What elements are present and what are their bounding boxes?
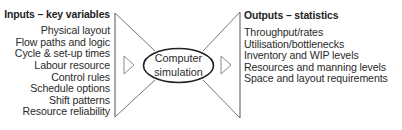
input-arrow-icon (124, 56, 134, 74)
simulation-label-line2: simulation (143, 66, 214, 79)
output-funnel-bottom-line (203, 80, 240, 118)
output-funnel-top-line (203, 12, 240, 51)
simulation-label-line1: Computer (143, 52, 214, 65)
output-arrow-icon (221, 56, 231, 74)
input-funnel-bottom-line (115, 80, 155, 117)
inputs-heading: Inputs – key variables (4, 9, 110, 21)
input-item: Physical layout (41, 24, 110, 36)
input-item: Schedule options (30, 82, 110, 94)
input-item: Labour resource (34, 59, 110, 71)
output-item: Space and layout requirements (244, 72, 388, 84)
outputs-heading: Outputs – statistics (244, 10, 338, 22)
input-item: Resource reliability (23, 105, 111, 117)
output-item: Throughput/rates (244, 26, 323, 38)
input-funnel-top-line (115, 13, 155, 51)
input-item: Cycle & set-up times (15, 47, 110, 59)
output-item: Inventory and WIP levels (244, 49, 359, 61)
